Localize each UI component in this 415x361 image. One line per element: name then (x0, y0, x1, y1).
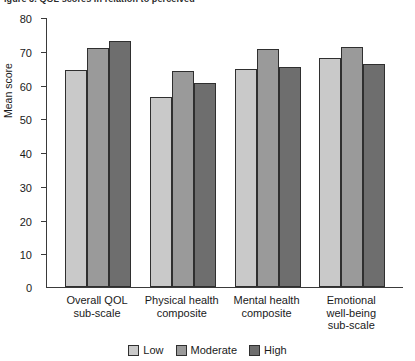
legend-item-high[interactable]: High (249, 344, 287, 356)
y-tick-30: 30 (41, 187, 47, 188)
bar (235, 69, 257, 287)
figure-container: igure 3. QOL scores in relation to perce… (0, 0, 415, 361)
bar-group (65, 18, 131, 287)
y-tick-label-0: 0 (26, 282, 32, 294)
y-tick-label-70: 70 (20, 47, 32, 59)
y-tick-label-10: 10 (20, 249, 32, 261)
legend-swatch-icon (249, 345, 260, 356)
y-tick-60: 60 (41, 86, 47, 87)
legend-swatch-icon (128, 345, 139, 356)
legend-label: High (264, 344, 287, 356)
legend-label: Moderate (191, 344, 237, 356)
y-tick-label-40: 40 (20, 148, 32, 160)
bar (87, 48, 109, 287)
bar (109, 41, 131, 287)
y-tick-80: 80 (41, 18, 47, 19)
figure-caption-clipped: igure 3. QOL scores in relation to perce… (4, 0, 304, 4)
y-tick-50: 50 (41, 119, 47, 120)
bar (319, 58, 341, 287)
legend-label: Low (143, 344, 163, 356)
bar (65, 70, 87, 287)
x-category-label-line: sub-scale (296, 319, 406, 332)
bar (341, 47, 363, 287)
bar (194, 83, 216, 287)
bar (257, 49, 279, 287)
bar (363, 64, 385, 287)
y-tick-40: 40 (41, 153, 47, 154)
y-tick-10: 10 (41, 254, 47, 255)
y-axis-title: Mean score (2, 63, 14, 118)
y-tick-label-60: 60 (20, 81, 32, 93)
plot-area: 01020304050607080 (46, 18, 403, 288)
y-tick-70: 70 (41, 52, 47, 53)
legend-swatch-icon (176, 345, 187, 356)
y-tick-label-80: 80 (20, 13, 32, 25)
x-category-label-line: well-being (296, 307, 406, 320)
bar (150, 97, 172, 287)
bar-group (150, 18, 216, 287)
bar (172, 71, 194, 287)
legend-item-moderate[interactable]: Moderate (176, 344, 237, 356)
y-tick-label-30: 30 (20, 182, 32, 194)
legend-item-low[interactable]: Low (128, 344, 163, 356)
bar-group (319, 18, 385, 287)
bar (279, 67, 301, 287)
y-tick-20: 20 (41, 221, 47, 222)
y-tick-label-20: 20 (20, 216, 32, 228)
x-category-label-line: Emotional (296, 294, 406, 307)
y-tick-label-50: 50 (20, 114, 32, 126)
x-category-label: Emotionalwell-beingsub-scale (296, 294, 406, 332)
bar-group (235, 18, 301, 287)
chart-legend: LowModerateHigh (0, 344, 415, 356)
